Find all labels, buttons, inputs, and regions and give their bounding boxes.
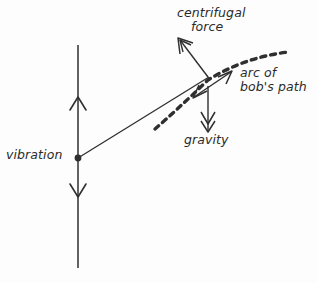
pivot-point-dot <box>75 155 82 162</box>
label-centrifugal-force-line2: force <box>177 20 246 34</box>
centrifugal-force-arrow-shaft <box>180 40 208 77</box>
diagram-canvas <box>0 0 318 283</box>
pendulum-force-diagram: centrifugal force arc of bob's path grav… <box>0 0 318 283</box>
label-arc-of-bobs-path: arc of bob's path <box>240 66 307 94</box>
label-centrifugal-force: centrifugal force <box>177 6 246 34</box>
label-arc-of-bobs-path-line2: bob's path <box>240 80 307 94</box>
label-centrifugal-force-line1: centrifugal <box>177 6 246 20</box>
tangent-arrow-shaft <box>194 72 231 97</box>
label-gravity: gravity <box>184 133 229 147</box>
label-vibration: vibration <box>6 148 62 162</box>
label-arc-of-bobs-path-line1: arc of <box>240 66 307 80</box>
